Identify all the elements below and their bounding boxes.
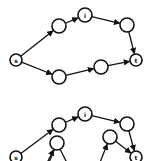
node-circle	[52, 118, 66, 132]
graph-top-edge-d-t	[108, 61, 130, 65]
graph-bottom-edge-c-out-1	[60, 149, 68, 161]
graph-bottom-node-i: i	[78, 107, 92, 121]
node-circle	[120, 117, 134, 131]
graph-top-edge-b-t	[129, 32, 135, 54]
node-label: s	[14, 57, 18, 64]
node-label: i	[84, 111, 86, 118]
graph-bottom-node-t: t	[130, 151, 142, 161]
graph-top-edge-s-a	[21, 31, 53, 57]
graph-bottom-edge-i-b	[92, 116, 120, 123]
graph-top-node-i: i	[78, 8, 92, 22]
graph-bottom-edge-s-a	[21, 129, 53, 153]
node-label: s	[14, 154, 18, 161]
graph-top-edge-s-c	[22, 62, 52, 74]
graph-bottom-node-c	[50, 136, 64, 150]
node-label: t	[135, 57, 138, 64]
graph-top-edge-a-i	[65, 18, 78, 23]
graph-bottom-edge-in-d	[99, 144, 107, 161]
diagram-canvas: sitsit	[0, 0, 155, 161]
graph-top-node-s: s	[10, 54, 22, 66]
graph-top-node-t: t	[130, 54, 142, 66]
node-circle	[50, 136, 64, 150]
graph-top-edge-c-d	[66, 69, 94, 76]
graph-bottom-node-s: s	[10, 151, 22, 161]
node-label: i	[84, 12, 86, 19]
graph-top-node-a	[52, 19, 66, 33]
node-label: t	[135, 154, 138, 161]
graph-bottom-edge-d-t	[116, 141, 131, 153]
graph-bottom-edge-b-t	[129, 131, 134, 151]
node-circle	[52, 19, 66, 33]
graph-bottom-node-d	[103, 130, 117, 144]
graph-top-node-b	[120, 18, 134, 32]
graph-top-node-c	[52, 70, 66, 84]
graph-top-node-d	[94, 60, 108, 74]
graph-bottom-node-b	[120, 117, 134, 131]
graph-bottom-node-a	[52, 118, 66, 132]
graph-top-edge-i-b	[92, 17, 120, 24]
node-circle	[94, 60, 108, 74]
node-circle	[120, 18, 134, 32]
node-circle	[103, 130, 117, 144]
graph-bottom-edge-a-i	[65, 117, 78, 122]
node-circle	[52, 70, 66, 84]
